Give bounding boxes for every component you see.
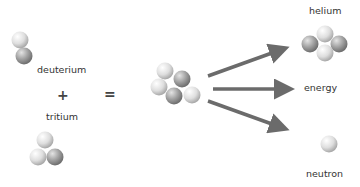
helium-label: helium xyxy=(309,5,341,16)
tritium-label: tritium xyxy=(46,111,78,122)
energy-label: energy xyxy=(304,82,337,93)
arrow-to-helium-icon xyxy=(208,49,283,76)
equals-sign: = xyxy=(104,86,116,102)
tritium-nucleus-icon xyxy=(30,132,64,166)
plus-sign: + xyxy=(57,87,69,103)
combined-nucleus-icon xyxy=(151,63,201,105)
neutron-label: neutron xyxy=(306,168,343,179)
fusion-diagram xyxy=(0,0,360,187)
deuterium-nucleus-icon xyxy=(12,32,33,65)
deuterium-label: deuterium xyxy=(37,64,86,75)
neutron-particle-icon xyxy=(321,136,338,153)
arrow-to-neutron-icon xyxy=(208,101,283,128)
helium-nucleus-icon xyxy=(302,26,348,62)
